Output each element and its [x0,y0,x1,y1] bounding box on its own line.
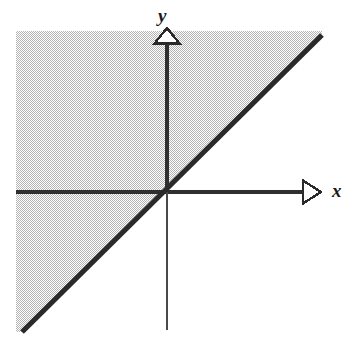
coordinate-plane-svg [0,0,357,355]
math-figure-inequality-graph: y x [0,0,357,355]
x-axis-label: x [332,181,342,200]
shaded-region-above-line [16,31,322,332]
y-axis-label: y [158,6,166,25]
triangle-right-outline-icon [303,181,321,204]
